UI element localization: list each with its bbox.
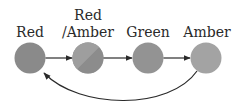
state-label-red: Red: [16, 25, 44, 40]
state-label-amber-text: Amber: [183, 24, 230, 40]
state-label-red-amber-line1: Red: [62, 8, 114, 23]
state-node-red-amber: [68, 38, 108, 78]
state-label-red-amber-line2: /Amber: [62, 25, 114, 40]
state-node-amber: [191, 43, 222, 74]
state-label-red-amber: Red /Amber: [62, 8, 114, 40]
state-node-green: [133, 43, 164, 74]
traffic-light-state-diagram: Red Red /Amber Green Amber: [0, 0, 243, 109]
state-label-green: Green: [126, 25, 169, 40]
diagram-canvas: [0, 0, 243, 109]
state-node-red: [15, 43, 46, 74]
transition-amber-to-red: [44, 71, 197, 101]
state-label-red-text: Red: [16, 24, 44, 40]
state-label-green-text: Green: [126, 24, 169, 40]
state-label-amber: Amber: [183, 25, 230, 40]
